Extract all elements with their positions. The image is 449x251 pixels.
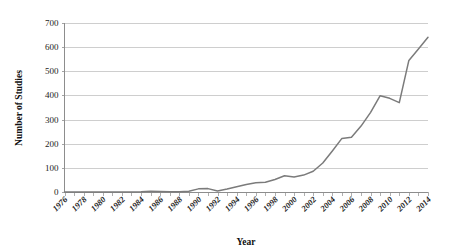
- x-axis-title: Year: [237, 237, 257, 247]
- y-tick-label: 400: [45, 90, 59, 100]
- y-tick-label: 700: [45, 18, 59, 28]
- y-axis-title: Number of Studies: [14, 70, 24, 146]
- y-tick-label: 500: [45, 66, 59, 76]
- y-tick-label: 100: [45, 163, 59, 173]
- line-chart: 0100200300400500600700 19761978198019821…: [0, 0, 449, 251]
- y-tick-label: 600: [45, 42, 59, 52]
- y-tick-label: 0: [54, 187, 59, 197]
- y-tick-label: 200: [45, 139, 59, 149]
- y-tick-label: 300: [45, 115, 59, 125]
- chart-canvas: 0100200300400500600700 19761978198019821…: [0, 0, 449, 251]
